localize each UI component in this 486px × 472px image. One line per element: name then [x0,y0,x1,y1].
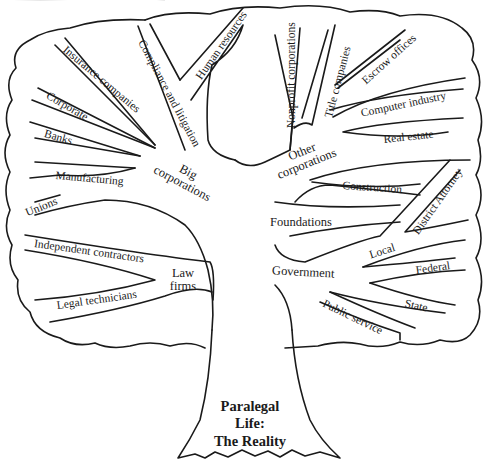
hub-law-firms: Lawfirms [163,267,203,293]
paralegal-tree-diagram: Compliance and litigation Human resource… [0,0,486,472]
title-line-2: Life: [195,415,305,432]
title-line-3: The Reality [195,433,305,450]
branch-nonprofit-corporations: Nonprofit corporations [286,22,298,128]
title-line-1: Paralegal [195,398,305,415]
trunk-title: Paralegal Life: The Reality [195,398,305,450]
hub-foundations: Foundations [270,216,332,229]
